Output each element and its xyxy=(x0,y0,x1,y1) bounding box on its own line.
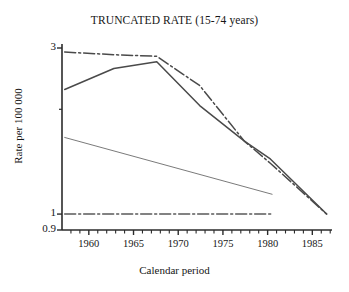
series-upper-dashdot-curve xyxy=(65,52,327,214)
series-thin-declining-line xyxy=(65,137,272,194)
y-tick-label: 1 xyxy=(16,206,56,218)
y-tick-label: 3 xyxy=(16,40,56,52)
chart-figure: TRUNCATED RATE (15-74 years) Rate per 10… xyxy=(0,0,349,292)
x-tick-label: 1960 xyxy=(64,238,114,249)
y-tick-label: 0.9 xyxy=(16,222,56,234)
x-tick-label: 1965 xyxy=(109,238,159,249)
x-tick-label: 1975 xyxy=(198,238,248,249)
series-solid-peak-curve xyxy=(65,62,327,214)
x-tick-label: 1980 xyxy=(243,238,293,249)
x-tick-label: 1970 xyxy=(153,238,203,249)
x-tick-label: 1985 xyxy=(287,238,337,249)
